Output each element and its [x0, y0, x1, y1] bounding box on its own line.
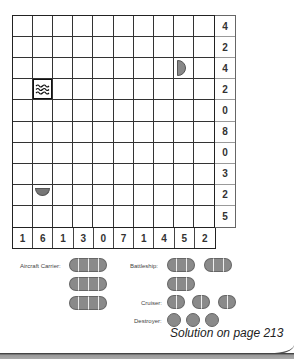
grid-cell[interactable]: [73, 206, 93, 227]
grid-cell[interactable]: [174, 185, 194, 206]
grid-cell[interactable]: [53, 122, 73, 143]
grid-cell[interactable]: [134, 58, 154, 79]
grid-cell[interactable]: [93, 16, 113, 37]
grid-cell[interactable]: [13, 185, 33, 206]
grid-cell[interactable]: [93, 100, 113, 121]
grid-cell[interactable]: [174, 16, 194, 37]
grid-cell[interactable]: [93, 37, 113, 58]
grid-cell[interactable]: [33, 79, 53, 100]
grid-cell[interactable]: [134, 79, 154, 100]
grid-cell[interactable]: [114, 16, 134, 37]
grid-cell[interactable]: [154, 122, 174, 143]
grid-cell[interactable]: [114, 79, 134, 100]
grid-cell[interactable]: [194, 185, 214, 206]
grid-cell[interactable]: [33, 143, 53, 164]
grid-cell[interactable]: [154, 164, 174, 185]
grid-cell[interactable]: [13, 143, 33, 164]
grid-cell[interactable]: [194, 206, 214, 227]
grid-cell[interactable]: [33, 164, 53, 185]
grid-cell[interactable]: [33, 58, 53, 79]
grid-cell[interactable]: [13, 79, 33, 100]
grid-cell[interactable]: [13, 58, 33, 79]
grid-cell[interactable]: [174, 122, 194, 143]
grid-cell[interactable]: [93, 79, 113, 100]
grid-cell[interactable]: [33, 122, 53, 143]
grid-cell[interactable]: [154, 185, 174, 206]
grid-cell[interactable]: [53, 58, 73, 79]
grid-cell[interactable]: [114, 122, 134, 143]
grid-cell[interactable]: [33, 206, 53, 227]
grid-cell[interactable]: [114, 58, 134, 79]
grid-cell[interactable]: [53, 185, 73, 206]
grid-cell[interactable]: [154, 100, 174, 121]
grid-cell[interactable]: [194, 164, 214, 185]
grid-cell[interactable]: [134, 100, 154, 121]
grid-cell[interactable]: [134, 164, 154, 185]
grid-cell[interactable]: [154, 143, 174, 164]
grid-cell[interactable]: [73, 58, 93, 79]
grid-cell[interactable]: [134, 16, 154, 37]
grid-cell[interactable]: [13, 122, 33, 143]
grid-cell[interactable]: [13, 37, 33, 58]
grid-cell[interactable]: [194, 122, 214, 143]
grid-cell[interactable]: [53, 79, 73, 100]
grid-cell[interactable]: [194, 79, 214, 100]
grid-cell[interactable]: [93, 143, 113, 164]
grid-cell[interactable]: [194, 16, 214, 37]
grid-cell[interactable]: [73, 122, 93, 143]
grid-cell[interactable]: [73, 37, 93, 58]
grid-cell[interactable]: [53, 37, 73, 58]
grid-cell[interactable]: [134, 143, 154, 164]
grid-cell[interactable]: [13, 100, 33, 121]
grid-cell[interactable]: [114, 37, 134, 58]
grid-cell[interactable]: [114, 185, 134, 206]
grid-cell[interactable]: [73, 100, 93, 121]
grid-cell[interactable]: [73, 164, 93, 185]
grid-cell[interactable]: [73, 79, 93, 100]
grid-cell[interactable]: [93, 164, 113, 185]
grid-cell[interactable]: [73, 16, 93, 37]
grid-cell[interactable]: [53, 16, 73, 37]
grid-cell[interactable]: [114, 164, 134, 185]
grid-cell[interactable]: [13, 206, 33, 227]
grid-cell[interactable]: [93, 58, 113, 79]
grid-cell[interactable]: [114, 206, 134, 227]
grid-cell[interactable]: [174, 79, 194, 100]
grid-cell[interactable]: [174, 164, 194, 185]
grid-cell[interactable]: [114, 100, 134, 121]
grid-cell[interactable]: [154, 79, 174, 100]
grid-cell[interactable]: [174, 206, 194, 227]
grid-cell[interactable]: [154, 206, 174, 227]
grid-cell[interactable]: [13, 164, 33, 185]
grid-cell[interactable]: [154, 37, 174, 58]
grid-cell[interactable]: [13, 16, 33, 37]
grid-cell[interactable]: [114, 143, 134, 164]
grid-cell[interactable]: [174, 37, 194, 58]
grid-cell[interactable]: [33, 16, 53, 37]
grid-cell[interactable]: [93, 206, 113, 227]
grid-cell[interactable]: [194, 58, 214, 79]
grid-cell[interactable]: [93, 122, 113, 143]
grid-cell[interactable]: [53, 143, 73, 164]
grid-cell[interactable]: [134, 122, 154, 143]
grid-cell[interactable]: [174, 143, 194, 164]
grid-cell[interactable]: [174, 58, 194, 79]
grid-cell[interactable]: [134, 185, 154, 206]
grid-cell[interactable]: [93, 185, 113, 206]
grid-cell[interactable]: [53, 206, 73, 227]
grid-cell[interactable]: [194, 100, 214, 121]
grid-cell[interactable]: [154, 16, 174, 37]
grid-cell[interactable]: [33, 185, 53, 206]
grid-cell[interactable]: [33, 37, 53, 58]
grid-cell[interactable]: [174, 100, 194, 121]
grid-cell[interactable]: [154, 58, 174, 79]
grid-cell[interactable]: [73, 185, 93, 206]
grid-cell[interactable]: [53, 164, 73, 185]
grid-cell[interactable]: [53, 100, 73, 121]
grid-cell[interactable]: [134, 37, 154, 58]
grid-cell[interactable]: [134, 206, 154, 227]
grid-cell[interactable]: [33, 100, 53, 121]
grid-cell[interactable]: [194, 37, 214, 58]
grid-cell[interactable]: [194, 143, 214, 164]
grid-cell[interactable]: [73, 143, 93, 164]
